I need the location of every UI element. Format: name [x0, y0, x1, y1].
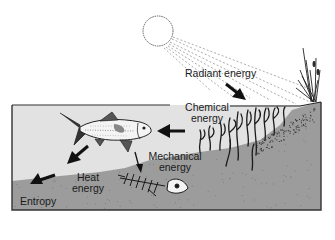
ground-speckle: [287, 136, 288, 137]
reeds-icon: [296, 48, 320, 102]
ground-speckle: [166, 179, 167, 180]
slope-stipple: [276, 136, 277, 137]
slope-stipple: [276, 139, 277, 140]
ground-speckle: [104, 208, 105, 209]
slope-stipple: [269, 138, 270, 139]
slope-stipple: [288, 130, 289, 131]
ground-speckle: [283, 181, 284, 182]
slope-stipple: [301, 122, 302, 123]
slope-stipple: [261, 149, 262, 150]
ground-speckle: [300, 205, 301, 206]
ground-speckle: [156, 207, 157, 208]
ground-speckle: [193, 175, 194, 176]
slope-stipple: [262, 141, 263, 142]
ground-speckle: [242, 195, 243, 196]
slope-stipple: [296, 120, 297, 121]
slope-stipple: [304, 119, 305, 120]
ground-speckle: [307, 196, 308, 197]
ground-speckle: [262, 170, 263, 171]
ground-speckle: [257, 143, 258, 144]
ground-speckle: [146, 176, 147, 177]
ground-speckle: [297, 194, 298, 195]
ground-speckle: [267, 207, 268, 208]
ground-speckle: [254, 200, 255, 201]
ground-speckle: [107, 199, 108, 200]
slope-stipple: [262, 151, 263, 152]
ground-speckle: [304, 140, 305, 141]
slope-stipple: [306, 119, 307, 120]
slope-stipple: [284, 131, 285, 132]
slope-stipple: [310, 112, 311, 113]
slope-stipple: [298, 127, 299, 128]
slope-stipple: [279, 141, 280, 142]
ground-speckle: [215, 195, 216, 196]
slope-stipple: [290, 131, 291, 132]
slope-stipple: [305, 123, 306, 124]
slope-stipple: [294, 130, 295, 131]
ground-speckle: [117, 201, 118, 202]
slope-stipple: [286, 130, 287, 131]
slope-stipple: [303, 115, 304, 116]
ground-speckle: [192, 186, 193, 187]
slope-stipple: [296, 126, 297, 127]
ground-speckle: [129, 200, 130, 201]
slope-stipple: [279, 136, 280, 137]
ground-speckle: [216, 159, 217, 160]
ground-speckle: [285, 203, 286, 204]
ground-speckle: [119, 179, 120, 180]
ground-speckle: [61, 186, 62, 187]
slope-stipple: [301, 120, 302, 121]
slope-stipple: [277, 133, 278, 134]
ground-speckle: [109, 190, 110, 191]
slope-stipple: [305, 114, 306, 115]
slope-stipple: [258, 153, 259, 154]
ground-speckle: [284, 151, 285, 152]
slope-stipple: [273, 135, 274, 136]
slope-stipple: [289, 125, 290, 126]
slope-stipple: [298, 130, 299, 131]
slope-stipple: [302, 119, 303, 120]
ground-speckle: [309, 198, 310, 199]
ground-speckle: [306, 129, 307, 130]
ground-speckle: [87, 197, 88, 198]
ground-speckle: [179, 199, 180, 200]
slope-stipple: [275, 138, 276, 139]
ground-speckle: [233, 173, 234, 174]
slope-stipple: [260, 149, 261, 150]
slope-stipple: [284, 136, 285, 137]
ground-speckle: [41, 207, 42, 208]
slope-stipple: [301, 126, 302, 127]
ground-speckle: [188, 200, 189, 201]
slope-stipple: [259, 153, 260, 154]
ground-speckle: [105, 203, 106, 204]
ground-speckle: [222, 179, 223, 180]
ground-speckle: [222, 173, 223, 174]
slope-stipple: [292, 123, 293, 124]
ground-speckle: [131, 203, 132, 204]
ground-speckle: [19, 187, 20, 188]
ground-speckle: [259, 150, 260, 151]
slope-stipple: [268, 137, 269, 138]
ground-speckle: [154, 205, 155, 206]
entropy-label: Entropy: [20, 196, 56, 207]
ground-speckle: [123, 183, 124, 184]
ground-speckle: [287, 166, 288, 167]
ground-speckle: [291, 176, 292, 177]
ground-speckle: [298, 132, 299, 133]
ground-speckle: [151, 195, 152, 196]
ground-speckle: [153, 196, 154, 197]
ground-speckle: [131, 188, 132, 189]
ground-speckle: [180, 207, 181, 208]
slope-stipple: [272, 141, 273, 142]
slope-stipple: [314, 108, 315, 109]
slope-stipple: [259, 142, 260, 143]
ground-speckle: [208, 191, 209, 192]
ground-speckle: [17, 184, 18, 185]
slope-stipple: [267, 144, 268, 145]
slope-stipple: [280, 130, 281, 131]
slope-stipple: [292, 124, 293, 125]
slope-stipple: [283, 132, 284, 133]
slope-stipple: [299, 127, 300, 128]
slope-stipple: [261, 144, 262, 145]
slope-stipple: [269, 148, 270, 149]
